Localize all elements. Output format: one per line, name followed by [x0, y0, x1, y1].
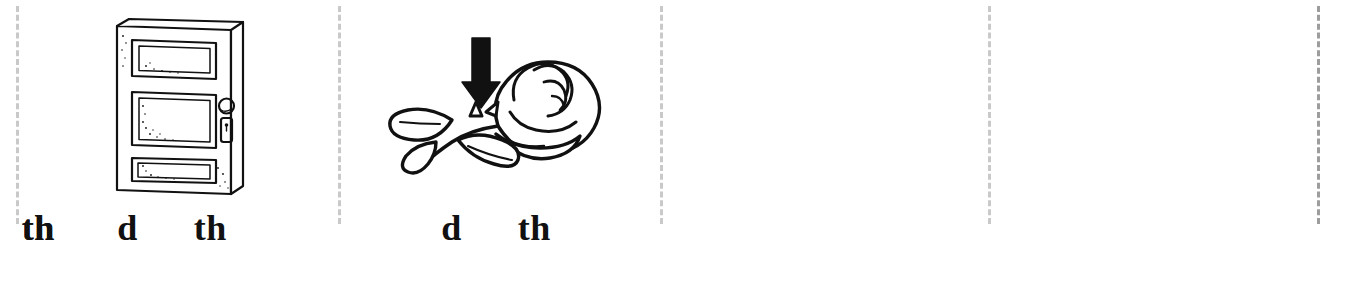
picture-card-door: d th [22, 0, 322, 289]
cut-line-right [1317, 6, 1320, 224]
cut-line-3-4 [988, 6, 991, 224]
rose-thorn-illustration [348, 8, 644, 206]
pointer-arrow [462, 38, 500, 108]
choice-d[interactable]: d [117, 208, 138, 248]
choice-th[interactable]: th [194, 208, 227, 248]
phonics-worksheet: d th [0, 0, 1346, 289]
answer-choices: d th [348, 208, 644, 266]
cut-line-1-2 [338, 6, 341, 224]
door-illustration [22, 8, 322, 206]
cut-line-2-3 [660, 6, 663, 224]
answer-choices: d th [22, 208, 322, 266]
choice-th[interactable]: th [518, 208, 551, 248]
picture-card-thorn: d th [348, 0, 644, 289]
choice-th[interactable]: th [22, 208, 55, 248]
choice-d[interactable]: d [441, 208, 462, 248]
cut-line-left [16, 6, 19, 224]
